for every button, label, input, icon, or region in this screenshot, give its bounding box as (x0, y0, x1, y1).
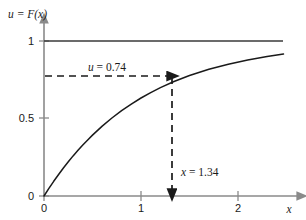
x-tick-label-1: 1 (138, 202, 144, 214)
u-value-annotation: u = 0.74 (88, 61, 126, 73)
y-tick-label-0: 0 (28, 190, 34, 202)
u-value-annotation-rest: = 0.74 (94, 61, 127, 73)
x-tick-label-2: 2 (235, 202, 241, 214)
chart-background (0, 0, 306, 220)
cdf-inverse-transform-chart: 0 1 2 0 0.5 1 u = F(x) x u = 0.74 x = 1.… (0, 0, 306, 220)
y-tick-label-1: 1 (28, 35, 34, 47)
x-axis-label: x (285, 203, 292, 215)
x-tick-label-0: 0 (41, 202, 47, 214)
figure-container: 0 1 2 0 0.5 1 u = F(x) x u = 0.74 x = 1.… (0, 0, 306, 220)
x-value-annotation-rest: = 1.34 (186, 166, 219, 178)
x-value-annotation: x = 1.34 (180, 166, 219, 178)
y-axis-label: u = F(x) (8, 8, 47, 21)
y-tick-label-0point5: 0.5 (19, 112, 34, 124)
